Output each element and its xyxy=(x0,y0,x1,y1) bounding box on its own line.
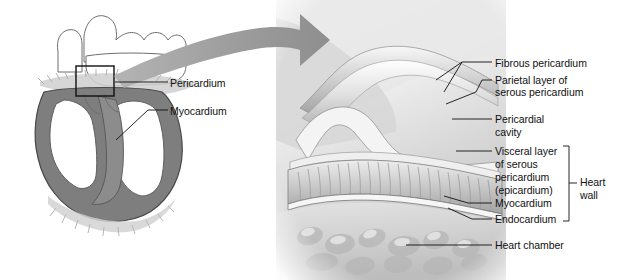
label-endocardium: Endocardium xyxy=(495,213,556,226)
label-visceral-layer-line2: of serous xyxy=(495,158,538,171)
label-visceral-layer-line4: (epicardium) xyxy=(495,184,553,197)
anatomy-figure: Pericardium Myocardium Fibrous pericardi… xyxy=(0,0,622,280)
heart-wall-bracket xyxy=(563,146,577,221)
label-heart-chamber: Heart chamber xyxy=(495,239,564,252)
label-parietal-layer-line1: Parietal layer of xyxy=(495,74,567,87)
illustration-canvas xyxy=(0,0,622,280)
label-fibrous-pericardium: Fibrous pericardium xyxy=(495,57,587,70)
label-heart-wall-line1: Heart xyxy=(580,176,605,189)
label-visceral-layer-line1: Visceral layer xyxy=(495,145,557,158)
heart-frontal-section xyxy=(35,16,196,236)
label-heart-wall-line2: wall xyxy=(580,189,598,202)
label-myocardium-left: Myocardium xyxy=(170,105,227,118)
label-pericardial-cavity-line2: cavity xyxy=(495,126,522,139)
label-pericardium-left: Pericardium xyxy=(170,77,225,90)
label-pericardial-cavity-line1: Pericardial xyxy=(495,113,544,126)
label-visceral-layer-line3: pericardium xyxy=(495,171,549,184)
label-myocardium-right: Myocardium xyxy=(495,197,552,210)
label-parietal-layer-line2: serous pericardium xyxy=(495,86,583,99)
